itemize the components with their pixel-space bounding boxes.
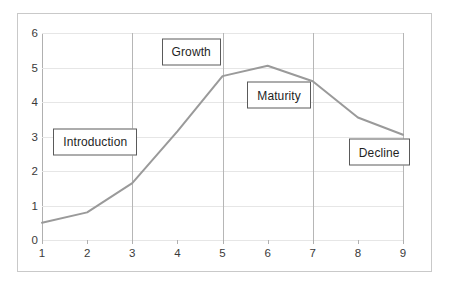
- x-tick-mark-3: [132, 240, 133, 244]
- x-tick-mark-7: [313, 240, 314, 244]
- x-tick-label-9: 9: [393, 247, 413, 259]
- x-tick-mark-4: [177, 240, 178, 244]
- x-tick-mark-8: [358, 240, 359, 244]
- x-tick-mark-1: [42, 240, 43, 244]
- x-tick-mark-6: [268, 240, 269, 244]
- stage-label-decline: Decline: [349, 139, 410, 166]
- y-tick-label-0: 0: [24, 234, 38, 246]
- x-axis-tick-labels: 123456789: [42, 247, 403, 265]
- x-tick-label-2: 2: [77, 247, 97, 259]
- y-tick-label-1: 1: [24, 200, 38, 212]
- y-tick-label-2: 2: [24, 165, 38, 177]
- stage-divider-x-9: [403, 33, 404, 240]
- x-tick-mark-9: [403, 240, 404, 244]
- y-tick-label-4: 4: [24, 96, 38, 108]
- x-tick-label-8: 8: [348, 247, 368, 259]
- x-tick-label-1: 1: [32, 247, 52, 259]
- x-tick-label-6: 6: [258, 247, 278, 259]
- x-tick-label-3: 3: [122, 247, 142, 259]
- y-tick-label-6: 6: [24, 27, 38, 39]
- x-tick-label-4: 4: [167, 247, 187, 259]
- x-tick-mark-2: [87, 240, 88, 244]
- stage-label-growth: Growth: [162, 38, 221, 65]
- x-tick-label-5: 5: [213, 247, 233, 259]
- x-tick-mark-5: [223, 240, 224, 244]
- y-tick-label-5: 5: [24, 62, 38, 74]
- stage-label-introduction: Introduction: [53, 128, 137, 155]
- y-tick-label-3: 3: [24, 131, 38, 143]
- x-tick-label-7: 7: [303, 247, 323, 259]
- y-axis-tick-labels: 0123456: [22, 33, 38, 240]
- product-life-cycle-chart: 0123456 123456789 IntroductionGrowthMatu…: [0, 0, 450, 287]
- stage-label-maturity: Maturity: [247, 82, 310, 109]
